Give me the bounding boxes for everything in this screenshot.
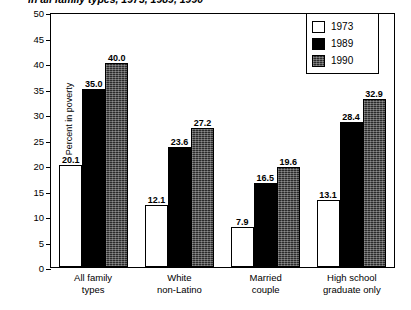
bar-1973[interactable]: 7.9 bbox=[231, 227, 254, 267]
bar-value-label: 16.5 bbox=[257, 173, 275, 183]
bar-1989[interactable]: 23.6 bbox=[168, 147, 191, 267]
chart-title-clipped: in all family types, 1973, 1989, 1990 bbox=[28, 0, 368, 5]
x-category-label: Whitenon-Latino bbox=[136, 272, 222, 306]
bar-1990[interactable]: 32.9 bbox=[363, 99, 386, 267]
legend-item-1973[interactable]: 1973 bbox=[312, 18, 373, 35]
bar-1990[interactable]: 19.6 bbox=[277, 167, 300, 267]
x-category-label: High schoolgraduate only bbox=[309, 272, 395, 306]
y-tick-mark bbox=[46, 269, 51, 270]
bar-value-label: 7.9 bbox=[236, 217, 249, 227]
x-axis-labels: All familytypesWhitenon-LatinoMarriedcou… bbox=[50, 272, 395, 306]
bar-value-label: 19.6 bbox=[280, 157, 298, 167]
x-category-label: All familytypes bbox=[50, 272, 136, 306]
x-category-label: Marriedcouple bbox=[223, 272, 309, 306]
bar-1973[interactable]: 20.1 bbox=[59, 165, 82, 268]
x-category-line2: types bbox=[50, 284, 136, 296]
x-category-line2: non-Latino bbox=[136, 284, 222, 296]
bar-value-label: 27.2 bbox=[194, 118, 212, 128]
bar-1973[interactable]: 12.1 bbox=[145, 205, 168, 267]
legend-label: 1973 bbox=[331, 21, 353, 32]
bar-value-label: 28.4 bbox=[342, 112, 360, 122]
legend-label: 1989 bbox=[331, 38, 353, 49]
bar-group: 7.916.519.6 bbox=[223, 14, 309, 267]
bar-value-label: 20.1 bbox=[62, 155, 80, 165]
chart-legend: 197319891990 bbox=[306, 13, 379, 74]
bar-1989[interactable]: 16.5 bbox=[254, 183, 277, 267]
x-category-line1: High school bbox=[309, 272, 395, 284]
bar-group-bars: 12.123.627.2 bbox=[145, 14, 214, 267]
bar-value-label: 32.9 bbox=[365, 89, 383, 99]
legend-swatch-icon bbox=[312, 38, 325, 50]
bar-1989[interactable]: 35.0 bbox=[82, 89, 105, 268]
bar-group: 20.135.040.0 bbox=[51, 14, 137, 267]
bar-group-bars: 20.135.040.0 bbox=[59, 14, 128, 267]
x-category-line2: graduate only bbox=[309, 284, 395, 296]
bar-group: 12.123.627.2 bbox=[137, 14, 223, 267]
bar-1990[interactable]: 27.2 bbox=[191, 128, 214, 267]
legend-label: 1990 bbox=[331, 55, 353, 66]
poverty-bar-chart: in all family types, 1973, 1989, 1990 Pe… bbox=[0, 0, 411, 310]
chart-title: in all family types, 1973, 1989, 1990 bbox=[28, 0, 368, 5]
legend-swatch-icon bbox=[312, 21, 325, 33]
bar-value-label: 40.0 bbox=[108, 53, 126, 63]
legend-item-1989[interactable]: 1989 bbox=[312, 35, 373, 52]
bar-1973[interactable]: 13.1 bbox=[317, 200, 340, 267]
bar-value-label: 12.1 bbox=[148, 195, 166, 205]
legend-item-1990[interactable]: 1990 bbox=[312, 52, 373, 69]
x-category-line2: couple bbox=[223, 284, 309, 296]
bar-1989[interactable]: 28.4 bbox=[340, 122, 363, 267]
bar-1990[interactable]: 40.0 bbox=[105, 63, 128, 267]
x-category-line1: White bbox=[136, 272, 222, 284]
bar-group-bars: 7.916.519.6 bbox=[231, 14, 300, 267]
bar-value-label: 13.1 bbox=[319, 190, 337, 200]
bar-value-label: 35.0 bbox=[85, 79, 103, 89]
legend-swatch-icon bbox=[312, 55, 325, 67]
x-category-line1: All family bbox=[50, 272, 136, 284]
x-category-line1: Married bbox=[223, 272, 309, 284]
bar-value-label: 23.6 bbox=[171, 137, 189, 147]
